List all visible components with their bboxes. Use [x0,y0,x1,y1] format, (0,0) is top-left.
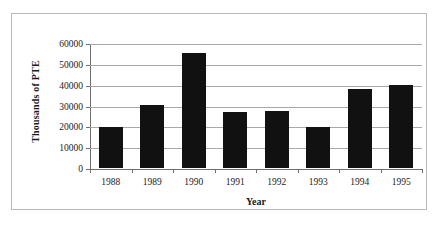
bar-1993 [306,127,330,168]
y-tick-mark [86,127,90,128]
x-tick-mark [90,169,91,173]
y-tick-mark [86,107,90,108]
x-tick-mark [256,169,257,173]
x-tick-label-1994: 1994 [350,177,369,187]
y-tick-mark [86,65,90,66]
x-tick-mark [422,169,423,173]
x-tick-mark [339,169,340,173]
x-tick-label-1995: 1995 [392,177,411,187]
x-tick-label-1993: 1993 [309,177,328,187]
y-tick-mark [86,44,90,45]
x-tick-label-1989: 1989 [143,177,162,187]
y-tick-label: 20000 [59,122,83,132]
y-tick-label: 0 [78,164,83,174]
bar-1992 [265,111,289,168]
bar-1991 [223,112,247,168]
gridline [90,86,422,87]
plot-area: 0100002000030000400005000060000 19881989… [90,44,422,169]
bar-1994 [348,89,372,168]
x-tick-label-1990: 1990 [184,177,203,187]
x-axis-title: Year [90,196,422,207]
y-tick-mark [86,86,90,87]
x-tick-mark [215,169,216,173]
gridline [90,44,422,45]
bar-1995 [389,85,413,168]
bar-1988 [99,127,123,168]
bar-1990 [182,53,206,168]
y-tick-label: 30000 [59,102,83,112]
y-tick-label: 10000 [59,143,83,153]
gridline [90,65,422,66]
x-tick-mark [173,169,174,173]
x-tick-label-1991: 1991 [226,177,245,187]
bar-1989 [140,105,164,168]
chart-figure: Thousands of PTE 01000020000300004000050… [0,0,442,226]
y-tick-label: 50000 [59,60,83,70]
y-axis-title: Thousands of PTE [30,37,41,167]
y-tick-label: 40000 [59,81,83,91]
x-tick-mark [132,169,133,173]
x-tick-mark [298,169,299,173]
x-tick-label-1988: 1988 [101,177,120,187]
chart-frame-border: Thousands of PTE 01000020000300004000050… [11,13,427,210]
y-tick-label: 60000 [59,39,83,49]
x-tick-label-1992: 1992 [267,177,286,187]
y-tick-mark [86,148,90,149]
x-tick-mark [381,169,382,173]
